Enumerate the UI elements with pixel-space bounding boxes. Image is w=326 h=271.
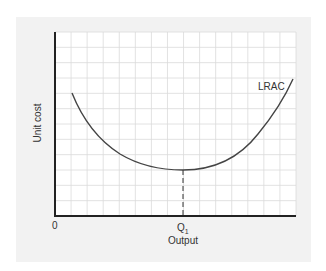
q1-tick-label: Q1 (177, 223, 189, 235)
lrac-label: LRAC (258, 82, 285, 92)
q1-subscript: 1 (185, 228, 189, 235)
q1-main: Q (177, 222, 185, 233)
y-axis-label: Unit cost (32, 104, 43, 143)
chart-plot (0, 0, 326, 271)
x-axis-label: Output (168, 236, 198, 246)
origin-label: 0 (52, 221, 58, 231)
